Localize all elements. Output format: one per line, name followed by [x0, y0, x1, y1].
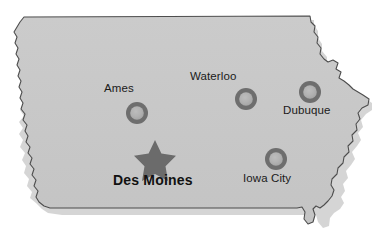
city-marker-waterloo[interactable]	[235, 88, 257, 110]
capital-label-des-moines: Des Moines	[113, 173, 193, 187]
city-label-iowa-city: Iowa City	[243, 173, 291, 185]
map-graphic	[0, 0, 377, 246]
city-marker-ames[interactable]	[126, 102, 148, 124]
city-label-waterloo: Waterloo	[190, 71, 236, 83]
city-dot-center	[303, 85, 317, 99]
city-dot-center	[130, 106, 144, 120]
city-label-ames: Ames	[104, 83, 134, 95]
state-silhouette	[14, 16, 369, 224]
city-dot-center	[239, 92, 253, 106]
city-marker-iowa-city[interactable]	[265, 148, 287, 170]
iowa-state-map: Ames Waterloo Dubuque Iowa City Des Moin…	[0, 0, 377, 246]
city-marker-dubuque[interactable]	[299, 81, 321, 103]
city-dot-center	[269, 152, 283, 166]
city-label-dubuque: Dubuque	[283, 105, 330, 117]
